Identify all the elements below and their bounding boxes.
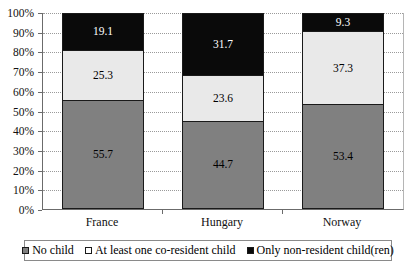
legend-item-no-child[interactable]: No child — [22, 244, 74, 257]
legend-item-label: At least one co-resident child — [95, 244, 236, 257]
bar-segment-value: 23.6 — [213, 93, 233, 105]
bar-segment-value: 53.4 — [333, 151, 353, 163]
legend: No child At least one co-resident child … — [24, 240, 392, 261]
x-tick-mark — [162, 210, 163, 214]
legend-item-co-resident[interactable]: At least one co-resident child — [85, 244, 236, 257]
legend-item-label: No child — [32, 244, 74, 257]
x-tick-label-norway: Norway — [282, 216, 402, 229]
bar-segment-value: 31.7 — [213, 39, 233, 51]
stacked-bar-chart: 100% 90% 80% 70% 60% 50% 40% 30% 20% 10%… — [0, 0, 414, 270]
x-tick-label-france: France — [42, 216, 162, 229]
x-tick-mark — [282, 210, 283, 214]
bar-segment-value: 55.7 — [93, 149, 113, 161]
bar-segment-no-child[interactable]: 44.7 — [182, 121, 264, 209]
y-axis: 100% 90% 80% 70% 60% 50% 40% 30% 20% 10%… — [0, 0, 42, 211]
y-tick-label: 0% — [19, 205, 34, 217]
bar-segment-value: 9.3 — [336, 17, 350, 29]
bar-segment-non-resident[interactable]: 31.7 — [182, 13, 264, 75]
legend-item-non-resident[interactable]: Only non-resident child(ren) — [247, 244, 394, 257]
x-tick-label-hungary: Hungary — [162, 216, 282, 229]
bar-france[interactable]: 19.1 25.3 55.7 — [62, 13, 144, 209]
legend-swatch-icon — [85, 247, 92, 254]
legend-swatch-icon — [22, 247, 29, 254]
bar-segment-value: 44.7 — [213, 159, 233, 171]
y-tick-label: 50% — [13, 107, 34, 119]
bar-hungary[interactable]: 31.7 23.6 44.7 — [182, 13, 264, 209]
bar-segment-co-resident[interactable]: 37.3 — [302, 31, 384, 104]
y-tick-label: 80% — [13, 47, 34, 59]
plot-area: 19.1 25.3 55.7 31.7 23.6 44.7 9.3 — [42, 13, 404, 210]
bar-segment-co-resident[interactable]: 23.6 — [182, 75, 264, 121]
bar-segment-value: 25.3 — [93, 70, 113, 82]
bar-segment-non-resident[interactable]: 19.1 — [62, 13, 144, 50]
bar-segment-co-resident[interactable]: 25.3 — [62, 50, 144, 100]
bar-segment-non-resident[interactable]: 9.3 — [302, 13, 384, 31]
legend-item-label: Only non-resident child(ren) — [257, 244, 394, 257]
legend-swatch-icon — [247, 247, 254, 254]
x-axis: France Hungary Norway — [42, 210, 405, 232]
bar-segment-value: 37.3 — [333, 63, 353, 75]
bar-segment-value: 19.1 — [93, 26, 113, 38]
y-tick-label: 20% — [13, 166, 34, 178]
y-tick-label: 30% — [13, 146, 34, 158]
y-tick-label: 90% — [13, 28, 34, 40]
y-tick-label: 70% — [13, 67, 34, 79]
y-tick-label: 40% — [13, 126, 34, 138]
y-tick-label: 10% — [13, 185, 34, 197]
bar-norway[interactable]: 9.3 37.3 53.4 — [302, 13, 384, 209]
bar-segment-no-child[interactable]: 53.4 — [302, 104, 384, 209]
bar-segment-no-child[interactable]: 55.7 — [62, 100, 144, 209]
y-tick-label: 100% — [7, 8, 34, 20]
y-tick-label: 60% — [13, 87, 34, 99]
